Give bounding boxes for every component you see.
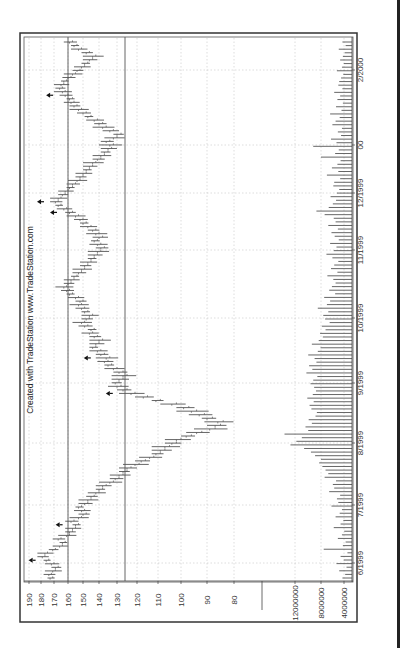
- price-tick-label: 150: [79, 593, 88, 607]
- reference-lines: [68, 37, 125, 581]
- price-tick-label: 120: [133, 593, 142, 607]
- date-tick-label: 6/1999: [356, 550, 365, 575]
- volume-bars: [285, 42, 352, 578]
- price-bars: [37, 40, 233, 579]
- volume-tick-label: 8000000: [317, 587, 326, 619]
- date-tick-label: 7/1999: [356, 492, 365, 517]
- price-tick-label: 170: [50, 593, 59, 607]
- date-tick-label: 10/1999: [356, 303, 365, 332]
- inner-frame: [24, 37, 353, 582]
- price-tick-label: 180: [37, 593, 46, 607]
- date-axis-labels: 6/19997/19998/19999/199910/199911/199912…: [352, 57, 365, 575]
- date-tick-label: 9/1999: [356, 370, 365, 395]
- date-tick-label: 8/1999: [356, 430, 365, 455]
- outer-frame: [20, 33, 357, 622]
- price-tick-label: 190: [25, 593, 34, 607]
- grid-lines: [25, 38, 352, 581]
- page-edge-line: [397, 0, 400, 648]
- date-tick-label: 11/1999: [356, 235, 365, 264]
- volume-tick-label: 12000000: [291, 585, 300, 621]
- credit-text: Created with TradeStation www.TradeStati…: [25, 226, 35, 414]
- volume-axis-labels: 1200000080000004000000: [291, 581, 349, 621]
- volume-tick-label: 4000000: [340, 587, 349, 619]
- price-tick-label: 90: [203, 595, 212, 604]
- arrow-markers: [29, 93, 113, 563]
- price-tick-label: 100: [177, 593, 186, 607]
- price-tick-label: 110: [154, 593, 163, 606]
- date-tick-label: 12/1999: [356, 178, 365, 207]
- rotated-stock-chart: 1901801701601501401301201101009080 12000…: [0, 0, 402, 648]
- date-tick-label: 2/2000: [356, 57, 365, 82]
- price-tick-label: 130: [113, 593, 122, 607]
- price-axis-labels: 1901801701601501401301201101009080: [25, 581, 239, 607]
- date-tick-label: 00: [356, 140, 365, 149]
- price-tick-label: 160: [64, 593, 73, 607]
- price-tick-label: 80: [230, 595, 239, 604]
- price-tick-label: 140: [95, 593, 104, 607]
